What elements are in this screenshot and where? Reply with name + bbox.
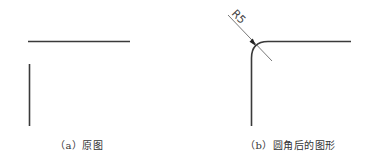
filleted-polyline: [252, 42, 352, 127]
caption-filleted: （b）圆角后的图形: [245, 137, 336, 152]
filleted-drawing: R5: [185, 0, 371, 160]
radius-dimension-label: R5: [229, 7, 249, 27]
figure-b-filleted: R5 （b）圆角后的图形: [185, 0, 371, 160]
caption-original: （a）原图: [55, 137, 103, 152]
original-drawing: [0, 0, 185, 160]
figure-a-original: （a）原图: [0, 0, 185, 160]
arrowhead-icon: [250, 39, 257, 46]
